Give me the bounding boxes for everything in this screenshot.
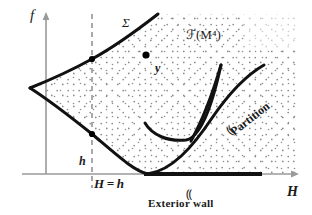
point-y-marker — [142, 51, 149, 58]
region-label: ℱ(M⁴) — [186, 28, 221, 41]
sigma-curve-label: Σ — [122, 16, 130, 29]
exterior-wall-label: Exterior wall — [148, 198, 214, 209]
point-lower-intersection — [89, 131, 95, 137]
region-fill — [28, 10, 304, 176]
exterior-wall-brace-icon: ⸨ — [186, 185, 192, 202]
y-axis-arrow — [43, 12, 50, 20]
figure-container: f H Σ ℱ(M⁴) y h H = h Exterior wall Part… — [0, 0, 312, 215]
h-line-label: H = h — [94, 177, 124, 190]
x-axis-label: H — [287, 185, 298, 199]
h-tick-label: h — [79, 155, 86, 167]
point-y-label: y — [155, 62, 160, 74]
point-upper-intersection — [89, 56, 95, 62]
y-axis-label: f — [30, 8, 34, 23]
